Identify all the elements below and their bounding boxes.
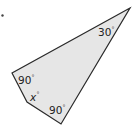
degree-symbol: ° (37, 90, 40, 97)
degree-symbol: ° (63, 103, 66, 110)
degree-symbol: ° (32, 73, 35, 80)
angle-value: 30 (98, 26, 111, 38)
degree-symbol: ° (112, 25, 115, 32)
angle-value: 90 (49, 104, 62, 116)
quadrilateral-diagram: 30 ° 90 ° x ° 90 ° (0, 0, 133, 139)
angle-value: 90 (18, 74, 31, 86)
bullet-marker (1, 14, 3, 16)
